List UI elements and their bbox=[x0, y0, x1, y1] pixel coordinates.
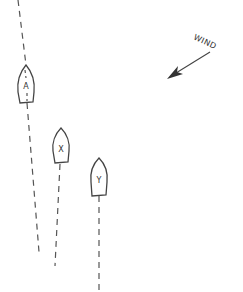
wind-label: WIND bbox=[192, 33, 218, 51]
boat-x: X bbox=[53, 128, 69, 266]
boat-a-label: A bbox=[23, 82, 29, 91]
wind-indicator: WIND bbox=[167, 33, 218, 79]
boat-y: Y bbox=[91, 158, 107, 290]
boat-x-track bbox=[55, 164, 60, 266]
wind-arrow-icon bbox=[167, 66, 183, 79]
boat-x-label: X bbox=[58, 145, 64, 154]
boat-a-track-lower bbox=[27, 103, 39, 252]
boat-y-label: Y bbox=[96, 176, 102, 185]
boat-a-track bbox=[18, 0, 26, 65]
wind-arrow-shaft bbox=[176, 52, 210, 73]
sailing-diagram: A X Y WIND bbox=[0, 0, 243, 292]
boat-a: A bbox=[18, 0, 39, 252]
